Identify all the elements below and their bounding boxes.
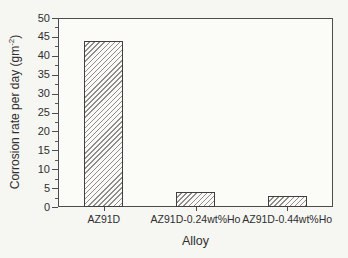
y-axis-major-tick [52, 169, 58, 170]
x-axis-tick [196, 207, 197, 211]
y-axis-tick-label: 40 [0, 50, 50, 61]
x-axis-tick [287, 207, 288, 211]
bar-AZ91D-0.24wt%Ho [176, 192, 215, 207]
y-axis-minor-tick [55, 84, 58, 85]
bar-AZ91D-0.44wt%Ho [268, 196, 307, 207]
y-axis-major-tick [52, 113, 58, 114]
y-axis-major-tick [52, 56, 58, 57]
y-axis-minor-tick [55, 65, 58, 66]
y-axis-tick-label: 25 [0, 107, 50, 118]
y-axis-major-tick [52, 131, 58, 132]
y-axis-minor-tick [55, 179, 58, 180]
x-axis-tick-label: AZ91D-0.44wt%Ho [222, 213, 348, 225]
corrosion-rate-bar-chart: Corrosion rate per day (gm-2) Alloy 0510… [0, 0, 348, 258]
x-axis-tick [104, 207, 105, 211]
y-axis-tick-label: 0 [0, 202, 50, 213]
x-axis-title: Alloy [58, 234, 333, 248]
y-axis-tick-label: 15 [0, 145, 50, 156]
y-axis-tick-label: 5 [0, 183, 50, 194]
y-axis-major-tick [52, 150, 58, 151]
y-axis-tick-label: 45 [0, 31, 50, 42]
y-axis-minor-tick [55, 27, 58, 28]
y-axis-minor-tick [55, 122, 58, 123]
y-axis-tick-label: 50 [0, 13, 50, 24]
y-axis-major-tick [52, 207, 58, 208]
y-axis-major-tick [52, 75, 58, 76]
y-axis-minor-tick [55, 103, 58, 104]
y-axis-minor-tick [55, 141, 58, 142]
y-axis-major-tick [52, 188, 58, 189]
y-axis-tick-label: 35 [0, 69, 50, 80]
y-axis-minor-tick [55, 46, 58, 47]
y-axis-tick-label: 10 [0, 164, 50, 175]
y-axis-minor-tick [55, 160, 58, 161]
bar-AZ91D [84, 41, 123, 207]
y-axis-tick-label: 20 [0, 126, 50, 137]
y-axis-major-tick [52, 18, 58, 19]
y-axis-tick-label: 30 [0, 88, 50, 99]
y-axis-major-tick [52, 94, 58, 95]
y-axis-minor-tick [55, 198, 58, 199]
y-axis-major-tick [52, 37, 58, 38]
